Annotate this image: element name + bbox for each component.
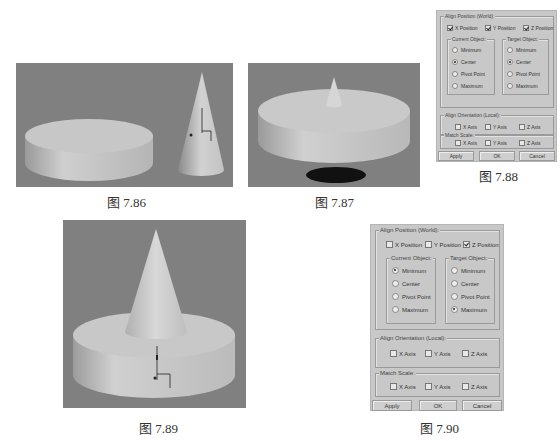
checkbox-icon — [463, 241, 470, 248]
match-scale-label: Match Scale: — [379, 370, 416, 376]
target-object-group: Target Object: Minimum Center Pivot Poin… — [502, 39, 549, 95]
current-maximum-radio[interactable]: Maximum — [452, 83, 483, 89]
align-position-group: Align Position (World): X Position Y Pos… — [375, 230, 500, 330]
caption-7-88: 图 7.88 — [479, 166, 518, 185]
checkbox-icon — [386, 241, 393, 248]
x-position-checkbox[interactable]: X Position — [386, 241, 422, 248]
align-orientation-label: Align Orientation (Local): — [444, 112, 501, 118]
scale-x-checkbox[interactable]: X Axis — [390, 383, 416, 390]
checkbox-icon — [462, 350, 469, 357]
orientation-z-checkbox[interactable]: Z Axis — [519, 124, 541, 130]
target-center-radio[interactable]: Center — [507, 59, 531, 65]
checkbox-icon — [485, 25, 491, 31]
y-position-checkbox[interactable]: Y Position — [425, 241, 461, 248]
checkbox-icon — [485, 124, 491, 130]
checkbox-icon — [485, 140, 491, 146]
match-scale-group: Match Scale: X Axis Y Axis Z Axis — [440, 135, 554, 149]
match-scale-group: Match Scale: X Axis Y Axis Z Axis — [375, 373, 500, 397]
z-position-checkbox[interactable]: Z Position — [523, 25, 553, 31]
orientation-z-checkbox[interactable]: Z Axis — [462, 350, 487, 357]
y-position-checkbox[interactable]: Y Position — [485, 25, 515, 31]
scale-y-checkbox[interactable]: Y Axis — [485, 140, 507, 146]
target-pivot-radio[interactable]: Pivot Point — [507, 71, 540, 77]
current-minimum-radio[interactable]: Minimum — [392, 267, 426, 274]
caption-7-87: 图 7.87 — [315, 192, 354, 211]
checkbox-icon — [455, 140, 461, 146]
current-object-label: Current Object: — [451, 36, 487, 42]
orientation-y-checkbox[interactable]: Y Axis — [425, 350, 451, 357]
checkbox-icon — [425, 383, 432, 390]
apply-button[interactable]: Apply — [372, 400, 412, 411]
current-object-group: Current Object: Minimum Center Pivot Poi… — [447, 39, 495, 95]
radio-icon — [452, 71, 458, 77]
radio-icon — [507, 59, 513, 65]
scale-x-checkbox[interactable]: X Axis — [455, 140, 477, 146]
target-center-radio[interactable]: Center — [451, 280, 479, 287]
target-pivot-radio[interactable]: Pivot Point — [451, 293, 490, 300]
align-position-label: Align Position (World): — [379, 227, 440, 233]
current-pivot-radio[interactable]: Pivot Point — [392, 293, 431, 300]
radio-icon — [452, 47, 458, 53]
current-maximum-radio[interactable]: Maximum — [392, 306, 428, 313]
checkbox-icon — [425, 241, 432, 248]
radio-icon — [507, 83, 513, 89]
target-minimum-radio[interactable]: Minimum — [451, 267, 485, 274]
target-object-group: Target Object: Minimum Center Pivot Poin… — [445, 258, 495, 324]
radio-icon — [392, 306, 399, 313]
checkbox-icon — [425, 350, 432, 357]
checkbox-icon — [462, 383, 469, 390]
radio-icon — [507, 47, 513, 53]
cancel-button[interactable]: Cancel — [462, 400, 502, 411]
align-orientation-group: Align Orientation (Local): X Axis Y Axis… — [375, 338, 500, 368]
figure-7-89-viewport — [63, 220, 246, 408]
orientation-y-checkbox[interactable]: Y Axis — [485, 124, 507, 130]
figure-7-86-viewport — [16, 63, 233, 187]
scale-y-checkbox[interactable]: Y Axis — [425, 383, 451, 390]
current-pivot-radio[interactable]: Pivot Point — [452, 71, 485, 77]
checkbox-icon — [390, 350, 397, 357]
orientation-x-checkbox[interactable]: X Axis — [390, 350, 416, 357]
target-minimum-radio[interactable]: Minimum — [507, 47, 536, 53]
z-position-checkbox[interactable]: Z Position — [463, 241, 499, 248]
scale-z-checkbox[interactable]: Z Axis — [462, 383, 487, 390]
target-maximum-radio[interactable]: Maximum — [507, 83, 538, 89]
radio-icon — [451, 280, 458, 287]
current-object-group: Current Object: Minimum Center Pivot Poi… — [386, 258, 436, 324]
ok-button[interactable]: OK — [479, 151, 515, 161]
cylinder-and-cone-render — [16, 63, 233, 187]
scale-z-checkbox[interactable]: Z Axis — [519, 140, 541, 146]
align-selection-dialog-7-90: Align Position (World): X Position Y Pos… — [370, 224, 504, 411]
current-center-radio[interactable]: Center — [452, 59, 476, 65]
align-orientation-label: Align Orientation (Local): — [379, 335, 447, 341]
current-center-radio[interactable]: Center — [392, 280, 420, 287]
radio-icon — [451, 267, 458, 274]
cone-on-cylinder-render — [248, 63, 420, 187]
target-maximum-radio[interactable]: Maximum — [451, 306, 487, 313]
radio-icon — [451, 293, 458, 300]
radio-icon — [392, 293, 399, 300]
caption-7-90: 图 7.90 — [420, 418, 459, 437]
radio-icon — [452, 83, 458, 89]
target-object-label: Target Object: — [449, 255, 488, 261]
current-minimum-radio[interactable]: Minimum — [452, 47, 481, 53]
target-object-label: Target Object: — [506, 36, 539, 42]
ok-button[interactable]: OK — [419, 400, 457, 411]
checkbox-icon — [519, 140, 525, 146]
checkbox-icon — [523, 25, 529, 31]
cone-on-top-of-cylinder-render — [63, 220, 246, 408]
radio-icon — [392, 280, 399, 287]
radio-icon — [452, 59, 458, 65]
cancel-button[interactable]: Cancel — [519, 151, 555, 161]
align-position-group: Align Position (World): X Position Y Pos… — [440, 16, 554, 108]
radio-icon — [507, 71, 513, 77]
orientation-x-checkbox[interactable]: X Axis — [455, 124, 477, 130]
checkbox-icon — [519, 124, 525, 130]
figure-7-87-viewport — [248, 63, 420, 187]
checkbox-icon — [447, 25, 453, 31]
current-object-label: Current Object: — [390, 255, 433, 261]
radio-icon — [451, 306, 458, 313]
apply-button[interactable]: Apply — [438, 151, 474, 161]
caption-7-89: 图 7.89 — [139, 418, 178, 437]
align-selection-dialog-7-88-lower: Match Scale: X Axis Y Axis Z Axis Apply … — [436, 136, 557, 162]
x-position-checkbox[interactable]: X Position — [447, 25, 478, 31]
